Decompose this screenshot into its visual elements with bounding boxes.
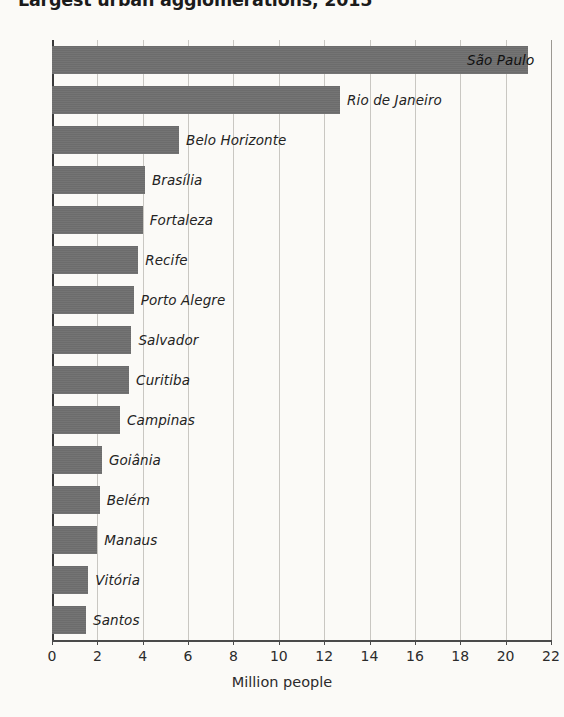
bar-são-paulo[interactable] [52, 46, 528, 74]
bar-label: Goiânia [109, 452, 161, 468]
x-tick-mark-16 [415, 640, 416, 645]
bar-row[interactable]: Fortaleza [52, 206, 563, 234]
x-tick-label-2: 2 [93, 648, 102, 664]
bar-brasília[interactable] [52, 166, 145, 194]
x-tick-mark-12 [324, 640, 325, 645]
x-tick-mark-10 [279, 640, 280, 645]
bar-label: Salvador [138, 332, 198, 348]
bar-label: Recife [145, 252, 188, 268]
x-tick-mark-2 [97, 640, 98, 645]
bar-label: Belém [107, 492, 150, 508]
page-title: Largest urban agglomerations, 2015 [18, 0, 372, 10]
x-tick-mark-4 [143, 640, 144, 645]
bar-salvador[interactable] [52, 326, 131, 354]
x-tick-mark-20 [506, 640, 507, 645]
bar-label: São Paulo [467, 52, 534, 68]
x-tick-label-6: 6 [184, 648, 193, 664]
bar-label: Campinas [127, 412, 195, 428]
x-axis-line [52, 640, 552, 642]
bar-manaus[interactable] [52, 526, 97, 554]
x-tick-label-12: 12 [315, 648, 333, 664]
bar-label: Porto Alegre [141, 292, 226, 308]
bar-row[interactable]: Porto Alegre [52, 286, 563, 314]
bar-row[interactable]: São Paulo [52, 46, 563, 74]
bar-row[interactable]: Santos [52, 606, 563, 634]
bar-row[interactable]: Campinas [52, 406, 563, 434]
bar-row[interactable]: Recife [52, 246, 563, 274]
x-tick-label-8: 8 [229, 648, 238, 664]
x-tick-label-0: 0 [48, 648, 57, 664]
x-tick-label-18: 18 [451, 648, 469, 664]
bar-row[interactable]: Belo Horizonte [52, 126, 563, 154]
bar-row[interactable]: Salvador [52, 326, 563, 354]
x-axis-title: Million people [0, 674, 564, 690]
x-tick-label-4: 4 [138, 648, 147, 664]
bar-santos[interactable] [52, 606, 86, 634]
bar-campinas[interactable] [52, 406, 120, 434]
x-tick-label-10: 10 [270, 648, 288, 664]
bar-fortaleza[interactable] [52, 206, 143, 234]
x-tick-label-16: 16 [406, 648, 424, 664]
bar-row[interactable]: Rio de Janeiro [52, 86, 563, 114]
bar-vitória[interactable] [52, 566, 88, 594]
bar-label: Curitiba [136, 372, 190, 388]
bar-row[interactable]: Vitória [52, 566, 563, 594]
x-tick-mark-8 [233, 640, 234, 645]
bar-curitiba[interactable] [52, 366, 129, 394]
bar-row[interactable]: Manaus [52, 526, 563, 554]
bar-row[interactable]: Brasília [52, 166, 563, 194]
x-tick-mark-0 [52, 640, 53, 645]
x-tick-label-22: 22 [542, 648, 560, 664]
x-tick-mark-18 [460, 640, 461, 645]
bar-goiânia[interactable] [52, 446, 102, 474]
bar-label: Santos [93, 612, 140, 628]
bar-porto-alegre[interactable] [52, 286, 134, 314]
x-tick-mark-14 [370, 640, 371, 645]
bar-label: Belo Horizonte [186, 132, 286, 148]
bar-row[interactable]: Curitiba [52, 366, 563, 394]
bar-label: Rio de Janeiro [347, 92, 442, 108]
x-tick-label-20: 20 [497, 648, 515, 664]
bar-label: Fortaleza [150, 212, 213, 228]
bar-row[interactable]: Belém [52, 486, 563, 514]
bar-label: Brasília [152, 172, 202, 188]
x-tick-label-14: 14 [361, 648, 379, 664]
bar-belém[interactable] [52, 486, 100, 514]
bar-label: Manaus [104, 532, 157, 548]
x-tick-mark-6 [188, 640, 189, 645]
bar-row[interactable]: Goiânia [52, 446, 563, 474]
bar-recife[interactable] [52, 246, 138, 274]
bar-belo-horizonte[interactable] [52, 126, 179, 154]
bar-label: Vitória [95, 572, 140, 588]
x-tick-mark-22 [551, 640, 552, 645]
bar-rio-de-janeiro[interactable] [52, 86, 340, 114]
